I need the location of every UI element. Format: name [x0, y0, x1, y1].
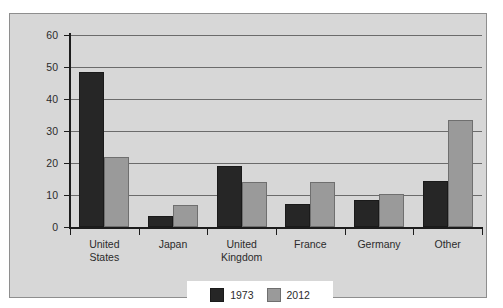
- bar-other-1973: [423, 181, 448, 227]
- y-tick-label-50: 50: [10, 61, 58, 73]
- figure: 0102030405060 United StatesJapanUnited K…: [0, 0, 503, 308]
- bar-united-kingdom-2012: [242, 182, 267, 227]
- plot-area: [70, 35, 482, 227]
- bar-other-2012: [448, 120, 473, 227]
- x-tick-mark-0: [70, 229, 71, 235]
- x-axis-label-united-kingdom: United Kingdom: [207, 238, 276, 263]
- bar-france-1973: [285, 204, 310, 227]
- bar-united-kingdom-1973: [217, 166, 242, 227]
- x-axis-label-other: Other: [413, 238, 482, 251]
- bar-japan-2012: [173, 205, 198, 227]
- bar-germany-2012: [379, 194, 404, 227]
- legend-swatch-1973: [210, 288, 224, 302]
- legend-entry-1973: 1973: [210, 288, 253, 302]
- x-axis-label-united-states: United States: [70, 238, 139, 263]
- legend: 1973 2012: [187, 281, 333, 308]
- x-axis-label-japan: Japan: [139, 238, 208, 251]
- legend-entry-2012: 2012: [267, 288, 310, 302]
- y-tick-label-10: 10: [10, 189, 58, 201]
- x-tick-mark-5: [413, 229, 414, 235]
- y-tick-mark-0: [64, 227, 70, 228]
- chart-frame: 0102030405060 United StatesJapanUnited K…: [9, 13, 487, 298]
- x-axis-label-germany: Germany: [345, 238, 414, 251]
- y-tick-label-20: 20: [10, 157, 58, 169]
- y-tick-label-30: 30: [10, 125, 58, 137]
- bar-united-states-2012: [104, 157, 129, 227]
- x-tick-mark-2: [207, 229, 208, 235]
- bar-japan-1973: [148, 216, 173, 227]
- bar-germany-1973: [354, 200, 379, 227]
- legend-label-2012: 2012: [287, 289, 310, 301]
- y-tick-label-60: 60: [10, 29, 58, 41]
- x-tick-mark-3: [276, 229, 277, 235]
- x-tick-mark-1: [139, 229, 140, 235]
- x-tick-mark-4: [345, 229, 346, 235]
- y-tick-label-40: 40: [10, 93, 58, 105]
- legend-label-1973: 1973: [230, 289, 253, 301]
- legend-swatch-2012: [267, 288, 281, 302]
- bar-france-2012: [310, 182, 335, 227]
- x-axis-label-france: France: [276, 238, 345, 251]
- bar-united-states-1973: [79, 72, 104, 227]
- x-tick-mark-6: [482, 229, 483, 235]
- y-tick-label-0: 0: [10, 221, 58, 233]
